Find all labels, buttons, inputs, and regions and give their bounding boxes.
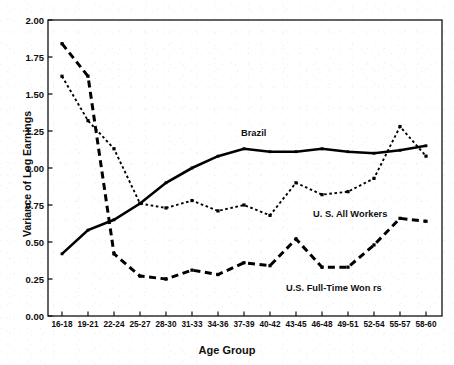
series-marker	[320, 266, 323, 269]
series-marker	[216, 209, 219, 212]
series-marker	[294, 237, 297, 240]
series-label-us-all-workers: U. S. All Workers	[313, 209, 387, 219]
plot-frame	[48, 20, 442, 316]
series-marker	[425, 144, 428, 147]
series-marker	[372, 243, 375, 246]
series-marker	[424, 220, 427, 223]
series-marker	[216, 273, 219, 276]
series-marker	[269, 150, 272, 153]
series-marker	[268, 264, 271, 267]
series-marker	[347, 150, 350, 153]
series-label-brazil: Brazil	[241, 128, 266, 138]
series-marker	[190, 199, 193, 202]
series-marker	[190, 269, 193, 272]
series-marker	[346, 190, 349, 193]
series-marker	[373, 152, 376, 155]
series-marker	[112, 147, 115, 150]
series-marker	[372, 177, 375, 180]
x-tick-label: 58-60	[404, 320, 448, 329]
series-marker	[165, 181, 168, 184]
series-marker	[164, 277, 167, 280]
series-label-us-full-time-workers: U.S. Full-Time Won rs	[286, 283, 382, 293]
series-marker	[424, 155, 427, 158]
plot-area	[0, 0, 454, 365]
series-marker	[87, 229, 90, 232]
series-marker	[113, 218, 116, 221]
series-marker	[346, 266, 349, 269]
series-marker	[191, 167, 194, 170]
series-line-0	[62, 146, 426, 254]
series-marker	[242, 203, 245, 206]
series-marker	[138, 202, 141, 205]
series-marker	[61, 252, 64, 255]
x-axis-title: Age Group	[0, 344, 454, 356]
series-marker	[164, 206, 167, 209]
series-marker	[242, 261, 245, 264]
series-marker	[217, 155, 220, 158]
series-marker	[398, 125, 401, 128]
series-line-2	[62, 44, 426, 279]
series-marker	[268, 214, 271, 217]
series-marker	[60, 75, 63, 78]
series-marker	[86, 119, 89, 122]
series-marker	[320, 193, 323, 196]
series-marker	[295, 150, 298, 153]
series-marker	[138, 274, 141, 277]
series-marker	[399, 149, 402, 152]
series-marker	[86, 75, 89, 78]
chart-figure: 0.000.250.500.751.001.251.501.752.00 Var…	[0, 0, 454, 365]
series-marker	[60, 42, 63, 45]
series-marker	[321, 147, 324, 150]
series-marker	[294, 181, 297, 184]
series-line-1	[62, 76, 426, 215]
series-marker	[112, 252, 115, 255]
series-marker	[243, 147, 246, 150]
series-marker	[398, 217, 401, 220]
